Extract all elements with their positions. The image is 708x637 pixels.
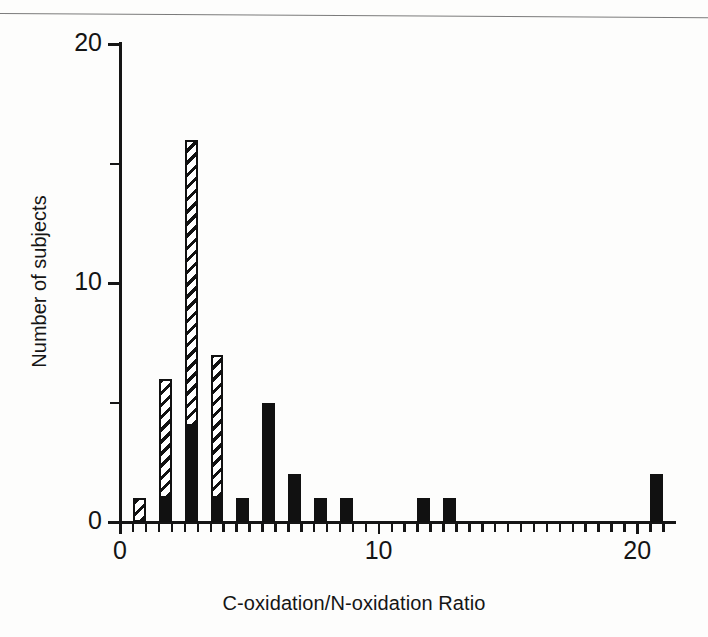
y-tick-minor xyxy=(110,163,119,166)
x-tick-minor xyxy=(403,523,406,532)
x-tick-minor xyxy=(352,523,355,532)
x-tick-minor xyxy=(494,523,497,532)
x-tick-minor xyxy=(455,523,458,532)
x-tick-minor xyxy=(158,523,161,532)
bar-segment-solid xyxy=(650,474,663,522)
x-tick-minor xyxy=(235,523,238,532)
bar-segment-hatched xyxy=(133,498,146,522)
x-tick-minor xyxy=(546,523,549,532)
bar-segment-solid xyxy=(340,498,353,522)
histogram-bar xyxy=(288,474,301,522)
x-tick-minor xyxy=(520,523,523,532)
x-tick-minor xyxy=(429,523,432,532)
x-tick-minor xyxy=(442,523,445,532)
bar-segment-solid xyxy=(211,498,224,522)
histogram-bar xyxy=(443,498,456,522)
histogram-bar xyxy=(417,498,430,522)
x-tick-minor xyxy=(365,523,368,532)
y-tick-label: 0 xyxy=(56,508,102,533)
y-tick-major xyxy=(108,43,119,46)
figure-canvas: 01020 01020 C-oxidation/N-oxidation Rati… xyxy=(0,0,708,637)
histogram-bar xyxy=(236,498,249,522)
histogram-bar xyxy=(211,355,224,522)
x-tick-minor xyxy=(507,523,510,532)
x-tick-minor xyxy=(597,523,600,532)
x-tick-minor xyxy=(261,523,264,532)
x-tick-minor xyxy=(145,523,148,532)
histogram-bar xyxy=(185,140,198,522)
x-tick-minor xyxy=(559,523,562,532)
x-tick-major xyxy=(636,523,639,534)
x-tick-minor xyxy=(572,523,575,532)
x-tick-minor xyxy=(623,523,626,532)
bar-segment-solid xyxy=(443,498,456,522)
histogram-bar xyxy=(314,498,327,522)
bar-segment-hatched xyxy=(159,379,172,499)
histogram-bar xyxy=(159,379,172,522)
x-tick-minor xyxy=(287,523,290,532)
bar-segment-solid xyxy=(417,498,430,522)
x-tick-major xyxy=(378,523,381,534)
x-tick-minor xyxy=(248,523,251,532)
bar-segment-hatched xyxy=(185,140,198,427)
y-tick-major xyxy=(108,282,119,285)
x-tick-minor xyxy=(468,523,471,532)
histogram-bar xyxy=(650,474,663,522)
y-tick-label: 20 xyxy=(56,30,102,55)
x-tick-minor xyxy=(184,523,187,532)
bar-segment-solid xyxy=(185,426,198,522)
histogram-bar xyxy=(262,403,275,523)
bar-segment-solid xyxy=(159,498,172,522)
histogram-bar xyxy=(133,498,146,522)
x-tick-minor xyxy=(584,523,587,532)
y-tick-major xyxy=(108,521,119,524)
x-tick-minor xyxy=(197,523,200,532)
y-axis-title: Number of subjects xyxy=(28,132,51,432)
x-axis-title: C-oxidation/N-oxidation Ratio xyxy=(0,592,708,615)
x-tick-minor xyxy=(313,523,316,532)
bar-segment-solid xyxy=(236,498,249,522)
x-tick-minor xyxy=(662,523,665,532)
x-tick-minor xyxy=(481,523,484,532)
bar-segment-hatched xyxy=(211,355,224,498)
plot-area xyxy=(120,44,676,522)
x-tick-minor xyxy=(391,523,394,532)
x-tick-minor xyxy=(132,523,135,532)
x-tick-minor xyxy=(274,523,277,532)
y-tick-label: 10 xyxy=(56,269,102,294)
x-tick-label: 10 xyxy=(349,536,409,565)
x-tick-minor xyxy=(222,523,225,532)
histogram-bar xyxy=(340,498,353,522)
x-tick-minor xyxy=(300,523,303,532)
x-tick-minor xyxy=(171,523,174,532)
bar-segment-solid xyxy=(262,403,275,523)
y-tick-minor xyxy=(110,402,119,405)
x-tick-minor xyxy=(339,523,342,532)
x-tick-minor xyxy=(610,523,613,532)
x-tick-minor xyxy=(326,523,329,532)
bar-segment-solid xyxy=(288,474,301,522)
x-tick-minor xyxy=(210,523,213,532)
x-tick-minor xyxy=(416,523,419,532)
x-tick-minor xyxy=(649,523,652,532)
bar-segment-solid xyxy=(314,498,327,522)
x-tick-label: 0 xyxy=(90,536,150,565)
x-tick-minor xyxy=(533,523,536,532)
x-tick-label: 20 xyxy=(607,536,667,565)
top-divider-rule xyxy=(0,13,708,18)
x-tick-major xyxy=(119,523,122,534)
